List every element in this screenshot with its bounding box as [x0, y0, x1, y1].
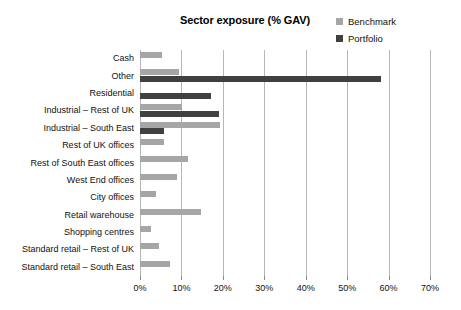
axis-tick-label: 20%: [214, 283, 232, 293]
category-label: Standard retail – Rest of UK: [22, 244, 134, 254]
category-label: Other: [111, 71, 134, 81]
bar-benchmark[interactable]: [140, 226, 151, 232]
axis-tick-label: 40%: [297, 283, 315, 293]
bar-benchmark[interactable]: [140, 104, 182, 110]
bar-group: [140, 172, 430, 189]
bar-group: [140, 154, 430, 171]
sector-exposure-chart: Sector exposure (% GAV) BenchmarkPortfol…: [0, 0, 461, 310]
category-axis-labels: CashOtherResidentialIndustrial – Rest of…: [0, 50, 134, 276]
bar-portfolio[interactable]: [140, 111, 219, 117]
legend-swatch-icon: [336, 18, 343, 25]
value-axis: 0%10%20%30%40%50%60%70%: [140, 276, 430, 302]
bar-benchmark[interactable]: [140, 156, 188, 162]
axis-tick-mark: [140, 276, 141, 280]
legend-item-label: Benchmark: [348, 16, 396, 27]
legend-item[interactable]: Portfolio: [336, 31, 456, 46]
bar-benchmark[interactable]: [140, 191, 156, 197]
bar-group: [140, 259, 430, 276]
bar-benchmark[interactable]: [140, 69, 179, 75]
bar-benchmark[interactable]: [140, 122, 220, 128]
gridline: [430, 50, 431, 276]
category-label: West End offices: [67, 175, 134, 185]
legend-item[interactable]: Benchmark: [336, 14, 456, 29]
category-label: Shopping centres: [64, 227, 134, 237]
plot-area: [140, 50, 430, 276]
bar-group: [140, 241, 430, 258]
axis-tick-mark: [181, 276, 182, 280]
legend-swatch-icon: [336, 35, 343, 42]
axis-tick-mark: [223, 276, 224, 280]
bar-benchmark[interactable]: [140, 243, 159, 249]
axis-tick-label: 60%: [380, 283, 398, 293]
axis-tick-mark: [306, 276, 307, 280]
axis-tick-mark: [264, 276, 265, 280]
chart-title: Sector exposure (% GAV): [150, 14, 340, 26]
axis-tick-label: 10%: [172, 283, 190, 293]
bar-group: [140, 50, 430, 67]
bar-group: [140, 120, 430, 137]
axis-tick-label: 70%: [421, 283, 439, 293]
category-label: Retail warehouse: [64, 210, 134, 220]
category-label: Rest of UK offices: [62, 140, 134, 150]
bar-benchmark[interactable]: [140, 52, 162, 58]
bar-portfolio[interactable]: [140, 76, 381, 82]
axis-tick-mark: [389, 276, 390, 280]
axis-tick-mark: [430, 276, 431, 280]
axis-tick-label: 50%: [338, 283, 356, 293]
bar-portfolio[interactable]: [140, 93, 211, 99]
category-label: Cash: [113, 53, 134, 63]
bar-group: [140, 67, 430, 84]
bar-group: [140, 85, 430, 102]
bar-benchmark[interactable]: [140, 174, 177, 180]
bar-group: [140, 224, 430, 241]
category-label: Standard retail – South East: [21, 262, 134, 272]
bar-portfolio[interactable]: [140, 128, 164, 134]
category-label: Industrial – South East: [43, 123, 134, 133]
bar-group: [140, 137, 430, 154]
chart-legend: BenchmarkPortfolio: [336, 14, 456, 48]
category-label: Rest of South East offices: [31, 158, 134, 168]
axis-tick-mark: [347, 276, 348, 280]
bar-benchmark[interactable]: [140, 209, 201, 215]
bar-benchmark[interactable]: [140, 139, 164, 145]
axis-tick-label: 0%: [133, 283, 146, 293]
bar-group: [140, 102, 430, 119]
category-label: Industrial – Rest of UK: [44, 105, 134, 115]
bar-group: [140, 206, 430, 223]
legend-item-label: Portfolio: [348, 33, 383, 44]
category-label: Residential: [89, 88, 134, 98]
axis-tick-label: 30%: [255, 283, 273, 293]
bar-benchmark[interactable]: [140, 261, 170, 267]
bar-group: [140, 189, 430, 206]
category-label: City offices: [90, 192, 134, 202]
